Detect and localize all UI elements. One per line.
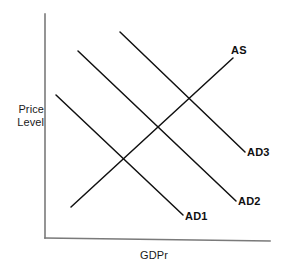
as-ad-diagram: PriceLevel GDPr AS AD3 AD2 AD1 (0, 0, 285, 273)
x-axis-line (45, 238, 270, 241)
ad1-curve (56, 95, 183, 215)
ad2-curve-label: AD2 (238, 195, 261, 207)
y-axis-label-line2: Level (17, 116, 44, 128)
x-axis-label: GDPr (118, 249, 190, 262)
plot-area (0, 0, 285, 273)
y-axis-label-line1: Price (18, 103, 44, 115)
ad1-curve-label: AD1 (185, 210, 208, 222)
as-curve-label: AS (231, 44, 247, 56)
y-axis-label: PriceLevel (8, 103, 44, 129)
ad3-curve-label: AD3 (247, 146, 270, 158)
ad3-curve (120, 32, 245, 152)
